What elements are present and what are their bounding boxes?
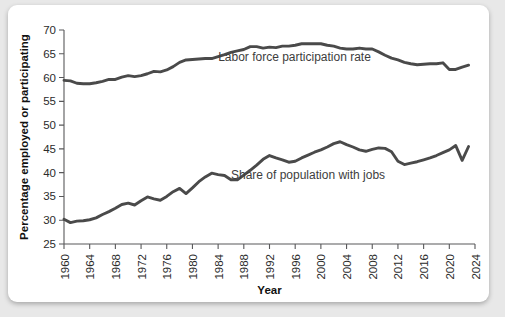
x-tick-label: 1984 — [213, 253, 225, 279]
chart-card: 25303540455055606570 1960196419681972197… — [8, 5, 489, 302]
x-tick-label: 1992 — [264, 254, 276, 280]
x-tick-labels: 1960196419681972197619801984198819921996… — [59, 253, 482, 279]
y-tick-marks — [59, 30, 64, 244]
y-axis: 25303540455055606570 — [43, 24, 64, 250]
y-tick-label: 60 — [43, 72, 56, 84]
y-tick-label: 70 — [43, 24, 56, 36]
series-inline-labels: Labor force participation rateShare of p… — [218, 50, 385, 182]
y-tick-label: 25 — [43, 238, 56, 250]
x-tick-label: 1988 — [238, 254, 250, 280]
y-tick-labels: 25303540455055606570 — [43, 24, 56, 250]
x-tick-label: 1976 — [161, 254, 173, 280]
y-tick-label: 50 — [43, 119, 56, 131]
x-tick-label: 2012 — [392, 254, 404, 280]
x-tick-marks — [64, 244, 475, 249]
y-tick-label: 65 — [43, 48, 56, 60]
y-tick-label: 40 — [43, 167, 56, 179]
x-tick-label: 2024 — [470, 253, 482, 279]
series-lines — [64, 44, 469, 223]
y-tick-label: 30 — [43, 214, 56, 226]
x-axis: 1960196419681972197619801984198819921996… — [59, 244, 482, 280]
series-label: Labor force participation rate — [218, 50, 371, 64]
x-tick-label: 2016 — [418, 254, 430, 280]
x-axis-title: Year — [257, 284, 282, 296]
y-tick-label: 55 — [43, 95, 56, 107]
x-tick-label: 2004 — [341, 253, 353, 279]
series-label: Share of population with jobs — [231, 168, 385, 182]
x-tick-label: 1980 — [187, 254, 199, 280]
x-tick-label: 1968 — [110, 254, 122, 280]
x-tick-label: 1996 — [290, 254, 302, 280]
x-tick-label: 2008 — [367, 254, 379, 280]
y-tick-label: 45 — [43, 143, 56, 155]
x-tick-label: 2000 — [315, 254, 327, 280]
y-axis-title: Percentage employed or participating — [18, 34, 30, 240]
x-tick-label: 1960 — [59, 254, 71, 280]
y-tick-label: 35 — [43, 190, 56, 202]
x-tick-label: 2020 — [444, 254, 456, 280]
employment-participation-line-chart: 25303540455055606570 1960196419681972197… — [8, 5, 489, 302]
x-tick-label: 1972 — [136, 254, 148, 280]
x-tick-label: 1964 — [84, 253, 96, 279]
